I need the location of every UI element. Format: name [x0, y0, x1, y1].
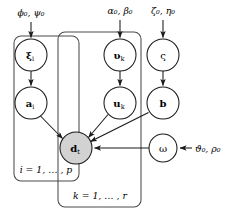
node-omega-label: ω: [159, 143, 167, 154]
plate-i-label: i = 1, … , p: [20, 164, 73, 175]
hyperparam-theta-rho-label: ϑ₀, ρ₀: [195, 143, 221, 154]
node-d[interactable]: dt: [60, 132, 92, 164]
hyperparameter-labels-layer: ϕ₀, ψ₀ α₀, β₀ ζ₀, η₀ ϑ₀, ρ₀: [18, 5, 221, 154]
node-b[interactable]: b: [147, 87, 179, 119]
edge-a-to-d: [41, 116, 63, 139]
hyperparam-alpha-beta-label: α₀, β₀: [107, 5, 132, 16]
edges-layer: [31, 71, 163, 148]
node-varsigma-label: ς: [160, 50, 166, 61]
plate-diagram-canvas: i = 1, … , p k = 1, … , r ξi: [0, 0, 237, 218]
node-b-label: b: [160, 98, 167, 109]
plate-k-label: k = 1, … , r: [73, 190, 127, 201]
hyperparam-phi-psi-label: ϕ₀, ψ₀: [18, 7, 45, 18]
node-varsigma[interactable]: ς: [147, 39, 179, 71]
plate-diagram-svg: i = 1, … , p k = 1, … , r ξi: [0, 0, 237, 218]
node-upsilon[interactable]: υk: [104, 39, 136, 71]
node-u[interactable]: uk: [104, 87, 136, 119]
hyperparam-zeta-eta-label: ζ₀, η₀: [151, 5, 175, 16]
node-a[interactable]: ai: [15, 87, 47, 119]
hyperparameter-arrows-layer: [31, 20, 192, 148]
nodes-layer: ξi ai υk uk ς: [15, 39, 179, 164]
node-omega[interactable]: ω: [149, 134, 177, 162]
node-xi[interactable]: ξi: [15, 39, 47, 71]
